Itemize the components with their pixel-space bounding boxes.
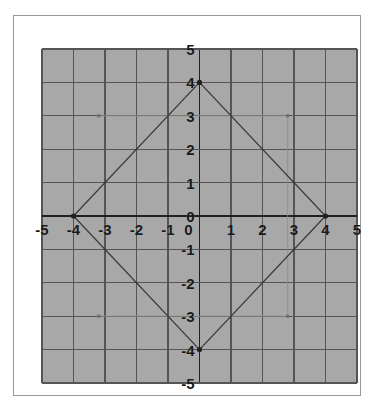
x-tick-label-4: 4 — [321, 222, 329, 237]
y-tick-label-neg1: -1 — [181, 242, 194, 257]
y-tick-label-neg4: -4 — [181, 342, 194, 357]
x-tick-label-neg1: -1 — [161, 222, 174, 237]
x-tick-label-neg3: -3 — [98, 222, 111, 237]
x-tick-label-2: 2 — [258, 222, 266, 237]
y-tick-label-neg5: -5 — [181, 376, 194, 391]
y-tick-label-2: 2 — [186, 142, 194, 157]
figure-canvas: -5-4-3-2-1012345 543210-1-2-3-4-5 — [0, 0, 376, 413]
y-tick-label-1: 1 — [186, 175, 194, 190]
figure-frame: -5-4-3-2-1012345 543210-1-2-3-4-5 — [13, 15, 361, 396]
y-tick-label-5: 5 — [186, 42, 194, 57]
y-tick-label-neg2: -2 — [181, 275, 194, 290]
y-tick-label-3: 3 — [186, 108, 194, 123]
x-tick-label-neg2: -2 — [130, 222, 143, 237]
x-tick-label-1: 1 — [227, 222, 235, 237]
x-tick-label-3: 3 — [290, 222, 298, 237]
x-tick-label-neg4: -4 — [67, 222, 80, 237]
x-tick-label-neg5: -5 — [35, 222, 48, 237]
y-tick-label-neg3: -3 — [181, 309, 194, 324]
plot-area: -5-4-3-2-1012345 543210-1-2-3-4-5 — [42, 49, 357, 383]
rhombus-shape-layer — [42, 49, 357, 383]
y-tick-label-0: 0 — [186, 209, 194, 224]
y-tick-label-4: 4 — [186, 75, 194, 90]
x-tick-label-5: 5 — [353, 222, 361, 237]
